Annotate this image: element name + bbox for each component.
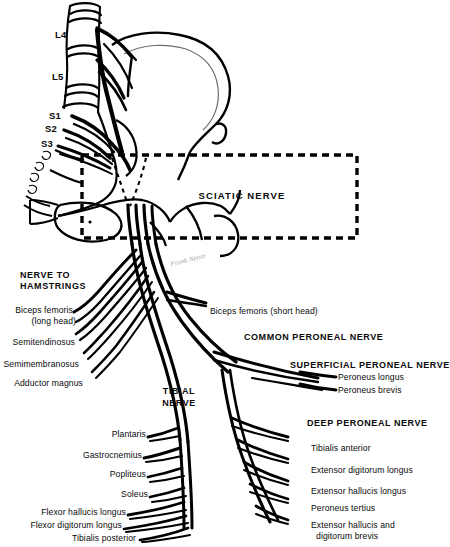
deep-peroneal-branch-extensor-hallucis-and-digitorum-brevis: Extensor hallucis and [311, 521, 395, 531]
hamstring-branch-biceps-femoris-long-head: Biceps femoris [0, 306, 73, 316]
tibial-branch-popliteus: Popliteus [34, 470, 146, 480]
nerve-to-hamstrings-heading-line2: HAMSTRINGS [20, 281, 86, 291]
tibial-branch-plantaris: Plantaris [40, 430, 146, 440]
deep-peroneal-branch-peroneus-tertius: Peroneus tertius [311, 504, 375, 514]
tibial-nerve-heading-line1: TIBIAL [155, 386, 203, 396]
tibial-branch-tibialis-posterior: Tibialis posterior [26, 534, 136, 544]
common-peroneal-branch-biceps-femoris-short-head: Biceps femoris (short head) [210, 307, 318, 317]
nerve-to-hamstrings-heading-line1: NERVE TO [20, 270, 70, 280]
deep-peroneal-nerve-heading: DEEP PERONEAL NERVE [307, 418, 428, 428]
hamstring-branch-biceps-femoris-long-head-line2: (long head) [0, 317, 76, 327]
superficial-peroneal-branch-peroneus-brevis: Peroneus brevis [338, 386, 402, 396]
lumbar-vertebrae [63, 3, 101, 112]
sciatic-nerve-title: SCIATIC NERVE [182, 191, 302, 202]
lumbosacral-plexus-nerve-roots [58, 28, 136, 174]
hamstring-branches [74, 250, 158, 378]
deep-peroneal-branch-extensor-hallucis-and-digitorum-brevis-line2: digitorum brevis [316, 532, 378, 542]
root-label-s1: S1 [49, 111, 61, 122]
tibial-branch-gastrocnemius: Gastrocnemius [30, 451, 142, 461]
root-label-s2: S2 [45, 124, 57, 135]
tibial-branch-flexor-digitorum-longus: Flexor digitorum longus [8, 521, 122, 531]
hamstring-branch-adductor-magnus: Adductor magnus [0, 379, 83, 389]
sacral-foramina [28, 151, 51, 193]
deep-peroneal-branch-extensor-digitorum-longus: Extensor digitorum longus [311, 466, 413, 476]
root-label-l5: L5 [52, 72, 64, 83]
root-label-s3: S3 [41, 139, 53, 150]
tibial-nerve-heading-line2: NERVE [155, 398, 203, 408]
deep-peroneal-branch-extensor-hallucis-longus: Extensor hallucis longus [311, 487, 406, 497]
superficial-peroneal-nerve-heading: SUPERFICIAL PERONEAL NERVE [290, 360, 450, 370]
tibial-branch-soleus: Soleus [36, 490, 148, 500]
tibial-branch-flexor-hallucis-longus: Flexor hallucis longus [14, 508, 126, 518]
deep-peroneal-branches [232, 418, 288, 524]
superficial-peroneal-branch-peroneus-longus: Peroneus longus [338, 373, 404, 383]
biceps-femoris-short-head-branch [167, 292, 206, 306]
hamstring-branch-semitendinosus: Semitendinosus [0, 338, 75, 348]
common-peroneal-nerve-heading: COMMON PERONEAL NERVE [244, 332, 383, 342]
deep-peroneal-branch-tibialis-anterior: Tibialis anterior [311, 444, 371, 454]
hamstring-branch-semimembranosus: Semimembranosus [0, 360, 79, 370]
coccyx [24, 196, 52, 216]
root-label-l4: L4 [55, 30, 67, 41]
